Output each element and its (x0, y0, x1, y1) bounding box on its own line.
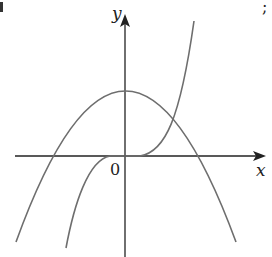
function-graph: ; y x 0 (0, 0, 272, 257)
edge-fragment-left (0, 2, 3, 12)
cubic-curve (66, 21, 194, 248)
parabola-curve (16, 91, 236, 242)
y-axis-label: y (111, 3, 122, 23)
origin-label: 0 (110, 160, 120, 179)
edge-fragment-semicolon: ; (262, 0, 267, 16)
x-axis-label: x (256, 160, 266, 180)
